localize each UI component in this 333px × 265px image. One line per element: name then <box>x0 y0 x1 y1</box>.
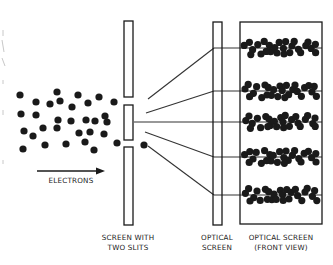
electron-dot <box>100 130 107 137</box>
electron-dot <box>62 140 69 147</box>
fringe-dot <box>291 147 298 154</box>
fringe-dot <box>282 147 289 154</box>
fringe-dot <box>247 51 254 58</box>
svg-text:(FRONT VIEW): (FRONT VIEW) <box>254 243 308 252</box>
fringe-dot <box>312 123 319 130</box>
electron-dot <box>32 111 39 118</box>
fringe-dot <box>311 187 318 194</box>
fringe-dot <box>282 38 289 45</box>
fringe-dot <box>245 112 252 119</box>
slit-screen-label: SCREEN WITH TWO SLITS <box>102 233 155 252</box>
front-view-label: OPTICAL SCREEN (FRONT VIEW) <box>249 233 314 252</box>
fringe-dot <box>253 83 260 90</box>
electron-dot <box>68 103 75 110</box>
fringe-dot <box>246 39 253 46</box>
electron-dot <box>17 110 24 117</box>
fringe-dot <box>263 157 270 164</box>
fringe-dot <box>246 159 253 166</box>
double-slit-diagram: ELECTRONS SCREEN WITH TWO SLITS OPTICAL … <box>0 0 333 265</box>
electron-dot <box>103 118 110 125</box>
slit-screen <box>124 21 133 225</box>
fringe-dot <box>263 48 270 55</box>
fringe-dot <box>281 160 288 167</box>
fringe-dot <box>298 197 305 204</box>
electrons-label: ELECTRONS <box>49 176 94 185</box>
fringe-dot <box>245 185 252 192</box>
direction-arrow <box>37 168 105 175</box>
fringe-dot <box>246 93 253 100</box>
fringe-dot <box>297 123 304 130</box>
electron-dot <box>84 99 91 106</box>
electron-dot <box>53 88 60 95</box>
svg-text:SCREEN: SCREEN <box>202 243 232 252</box>
fringe-dot <box>292 186 299 193</box>
electron-dot <box>91 117 98 124</box>
fringe-dot <box>263 91 270 98</box>
fringe-dot <box>282 112 289 119</box>
fringe-dot <box>273 123 280 130</box>
electron-dot <box>54 116 61 123</box>
fringe-dot <box>304 38 311 45</box>
electron-dot <box>56 97 63 104</box>
electron-dot <box>86 128 93 135</box>
fringe-dot <box>247 125 254 132</box>
electron-dot <box>16 91 23 98</box>
fringe-dot <box>311 83 318 90</box>
electron-dot <box>81 138 88 145</box>
fringe-dot <box>312 150 319 157</box>
fringe-dot <box>274 159 281 166</box>
fringe-dot <box>273 49 280 56</box>
electron-dot <box>110 98 117 105</box>
fringe-dot <box>280 50 287 57</box>
svg-text:OPTICAL SCREEN: OPTICAL SCREEN <box>249 233 314 242</box>
fringe-dot <box>270 152 277 159</box>
fringe-dot <box>257 124 264 131</box>
electron-dot <box>67 117 74 124</box>
fringe-dot <box>276 39 283 46</box>
electron-dot <box>140 141 147 148</box>
electron-dot <box>90 146 97 153</box>
electron-dot <box>95 93 102 100</box>
svg-text:OPTICAL: OPTICAL <box>201 233 233 242</box>
optical-screen <box>213 22 222 225</box>
fringe-dot <box>254 115 261 122</box>
fringe-dot <box>283 82 290 89</box>
slit-screen-segment <box>124 21 133 97</box>
ray-line <box>145 132 214 157</box>
fringe-dot <box>312 158 319 165</box>
fringe-dot <box>280 197 287 204</box>
electron-dot <box>74 91 81 98</box>
fringe-dot <box>276 148 283 155</box>
fringe-dot <box>312 41 319 48</box>
fringe-dot <box>292 113 299 120</box>
electron-dot <box>19 145 26 152</box>
fringe-dot <box>270 86 277 93</box>
electron-dot <box>29 132 36 139</box>
electron-dot <box>46 100 53 107</box>
fringe-dot <box>253 187 260 194</box>
fringe-dot <box>304 112 311 119</box>
fringe-dot <box>311 114 318 121</box>
fringe-dot <box>304 185 311 192</box>
electron-dot <box>82 116 89 123</box>
fringe-dot <box>274 93 281 100</box>
slit-screen-segment <box>124 147 133 225</box>
svg-text:SCREEN WITH: SCREEN WITH <box>102 233 155 242</box>
fringe-dot <box>253 149 260 156</box>
fringe-dot <box>291 38 298 45</box>
fringe-dot <box>297 158 304 165</box>
electron-dot <box>32 98 39 105</box>
ray-line <box>148 48 214 99</box>
fringe-dot <box>246 197 253 204</box>
fringe-dot <box>254 41 261 48</box>
fringe-dot <box>291 81 298 88</box>
fringe-dot <box>281 94 288 101</box>
fringe-dot <box>312 49 319 56</box>
fringe-dot <box>297 49 304 56</box>
ray-line <box>146 91 214 113</box>
fringe-dot <box>273 196 280 203</box>
electron-dot <box>53 124 60 131</box>
electron-dot <box>39 124 46 131</box>
fringe-dot <box>313 93 320 100</box>
slit-screen-segment <box>124 105 133 140</box>
